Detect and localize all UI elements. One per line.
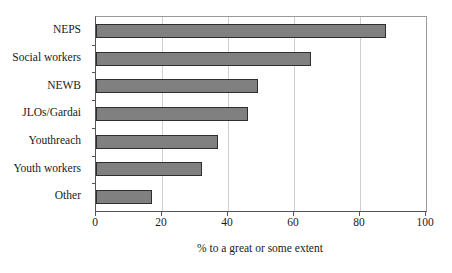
category-tick [92,45,96,46]
category-tick [92,156,96,157]
category-tick [92,128,96,129]
category-label-newb: NEWB [0,71,88,99]
value-axis-label-60: 60 [287,217,299,229]
category-label-youth-workers: Youth workers [0,155,88,183]
bar-other [96,190,152,204]
category-label-neps: NEPS [0,16,88,44]
bar-row [96,45,426,73]
value-axis-label-80: 80 [353,217,365,229]
x-axis-title: % to a great or some extent [95,243,425,255]
plot-area [95,16,427,212]
category-tick [92,72,96,73]
bar-row [96,100,426,128]
bar-row [96,183,426,211]
category-axis-labels: NEPS Social workers NEWB JLOs/Gardai You… [0,16,88,210]
category-label-jlos-gardai: JLOs/Gardai [0,99,88,127]
value-axis-labels: 020406080100 [95,217,425,235]
bar-chart: NEPS Social workers NEWB JLOs/Gardai You… [0,0,452,273]
category-tick [92,100,96,101]
bar-row [96,72,426,100]
value-axis-label-40: 40 [221,217,233,229]
category-tick [92,183,96,184]
bar-jlos-gardai [96,107,248,121]
category-label-youthreach: Youthreach [0,127,88,155]
bar-social-workers [96,52,311,66]
bar-row [96,17,426,45]
value-axis-label-20: 20 [155,217,167,229]
category-label-other: Other [0,182,88,210]
category-label-social-workers: Social workers [0,44,88,72]
bar-row [96,156,426,184]
bar-youth-workers [96,162,202,176]
bar-neps [96,24,386,38]
bar-series [96,17,426,211]
bar-youthreach [96,135,218,149]
value-axis-label-100: 100 [416,217,433,229]
bar-newb [96,79,258,93]
bar-row [96,128,426,156]
value-axis-label-0: 0 [92,217,98,229]
